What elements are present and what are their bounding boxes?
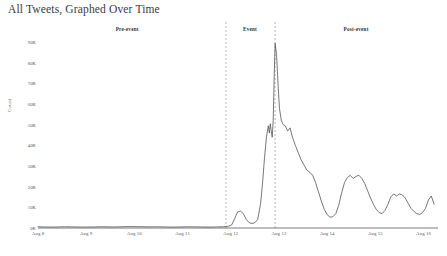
y-tick-label: 0K [30, 226, 36, 231]
y-tick-label: 40K [28, 143, 36, 148]
x-tick-label: Aug 13 [272, 231, 287, 236]
y-tick-label: 60K [28, 102, 36, 107]
x-tick-label: Aug 14 [320, 231, 335, 236]
y-tick-label: 30K [28, 164, 36, 169]
x-tick-label: Aug 10 [127, 231, 142, 236]
y-tick-label: 80K [28, 60, 36, 65]
band-label: Pre-event [116, 26, 139, 32]
y-tick-label: 10K [28, 205, 36, 210]
x-tick-label: Aug 11 [175, 231, 190, 236]
y-axis-tick-labels: 0K10K20K30K40K50K60K70K80K90K [0, 36, 36, 228]
event-divider-lines [226, 22, 275, 228]
y-tick-label: 20K [28, 184, 36, 189]
x-tick-label: Aug 16 [416, 231, 431, 236]
y-tick-label: 90K [28, 40, 36, 45]
y-tick-label: 70K [28, 81, 36, 86]
x-tick-label: Aug 8 [32, 231, 44, 236]
x-tick-label: Aug 9 [80, 231, 92, 236]
x-axis-tick-labels: Aug 8Aug 9Aug 10Aug 11Aug 12Aug 13Aug 14… [38, 231, 438, 245]
x-tick-label: Aug 12 [223, 231, 238, 236]
band-label: Post-event [344, 26, 369, 32]
x-tick-label: Aug 15 [368, 231, 383, 236]
series-canvas [38, 36, 438, 228]
page-title: All Tweets, Graphed Over Time [8, 3, 160, 15]
tweet-series-line [38, 43, 434, 227]
tweet-volume-chart: All Tweets, Graphed Over Time Count 0K10… [0, 0, 447, 256]
y-tick-label: 50K [28, 122, 36, 127]
plot-area [38, 36, 438, 228]
band-label: Event [243, 26, 257, 32]
